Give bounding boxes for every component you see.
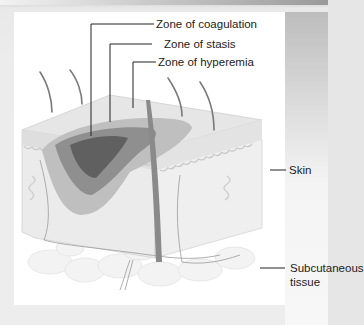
label-zone-of-coagulation: Zone of coagulation	[156, 18, 257, 31]
label-zone-of-hyperemia: Zone of hyperemia	[158, 56, 254, 69]
label-subcutaneous: Subcutaneous	[290, 262, 364, 275]
label-tissue: tissue	[290, 276, 320, 289]
label-zone-of-stasis: Zone of stasis	[164, 38, 236, 51]
label-skin: Skin	[289, 164, 311, 177]
